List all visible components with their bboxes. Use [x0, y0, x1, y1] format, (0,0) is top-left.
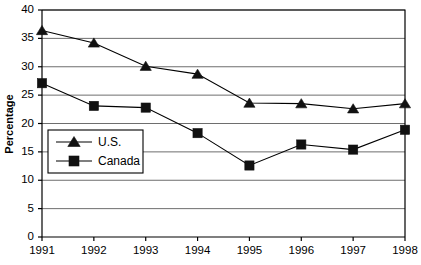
y-tick-label: 20: [21, 117, 34, 129]
data-point: [349, 145, 358, 154]
square-icon: [69, 156, 79, 166]
data-point: [400, 125, 409, 134]
x-tick-label: 1994: [185, 244, 211, 256]
x-tick-label: 1993: [133, 244, 159, 256]
x-tick-label: 1996: [288, 244, 314, 256]
x-tick-label: 1991: [29, 244, 55, 256]
y-tick-label: 25: [21, 88, 34, 100]
y-axis-title: Percentage: [3, 94, 15, 153]
y-tick-label: 35: [21, 31, 34, 43]
y-tick-label: 30: [21, 60, 34, 72]
y-tick-label: 10: [21, 173, 34, 185]
chart-legend: U.S. Canada: [48, 130, 143, 173]
data-point: [245, 161, 254, 170]
x-tick-label: 1995: [237, 244, 263, 256]
y-tick-label: 0: [28, 230, 34, 242]
data-point: [141, 103, 150, 112]
y-tick-label: 5: [28, 202, 34, 214]
data-point: [193, 129, 202, 138]
y-tick-label: 15: [21, 145, 34, 157]
y-tick-label: 40: [21, 3, 34, 15]
x-tick-label: 1992: [81, 244, 107, 256]
x-tick-label: 1997: [340, 244, 366, 256]
data-point: [37, 79, 46, 88]
data-point: [297, 140, 306, 149]
data-point: [89, 101, 98, 110]
x-axis-ticks: 19911992199319941995199619971998: [29, 237, 418, 256]
legend-label-us: U.S.: [98, 135, 121, 149]
y-axis-ticks: 0510152025303540: [21, 3, 42, 242]
legend-label-canada: Canada: [98, 154, 140, 168]
chart-canvas: 0510152025303540 19911992199319941995199…: [0, 0, 421, 265]
x-tick-label: 1998: [392, 244, 418, 256]
line-chart: 0510152025303540 19911992199319941995199…: [0, 0, 421, 265]
